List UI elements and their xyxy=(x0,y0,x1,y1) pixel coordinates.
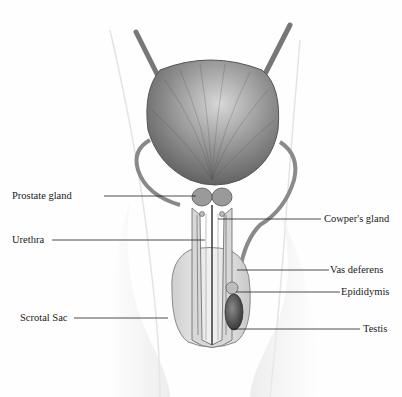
ureter-left xyxy=(136,32,160,80)
label-testis: Testis xyxy=(363,323,387,335)
label-epididymis: Epididymis xyxy=(341,286,389,298)
label-vas-deferens: Vas deferens xyxy=(330,264,383,276)
label-prostate-gland: Prostate gland xyxy=(12,190,72,202)
ureter-right xyxy=(264,25,290,76)
label-urethra: Urethra xyxy=(12,234,44,246)
cowpers-gland-left xyxy=(200,212,205,217)
label-scrotal-sac: Scrotal Sac xyxy=(20,312,68,324)
cowpers-gland-right xyxy=(220,212,225,217)
testis xyxy=(225,294,243,330)
anatomy-diagram: Prostate gland Urethra Scrotal Sac Cowpe… xyxy=(0,0,402,397)
prostate-left-lobe xyxy=(192,188,212,206)
label-cowpers-gland: Cowper's gland xyxy=(324,213,389,225)
prostate-right-lobe xyxy=(212,188,232,206)
